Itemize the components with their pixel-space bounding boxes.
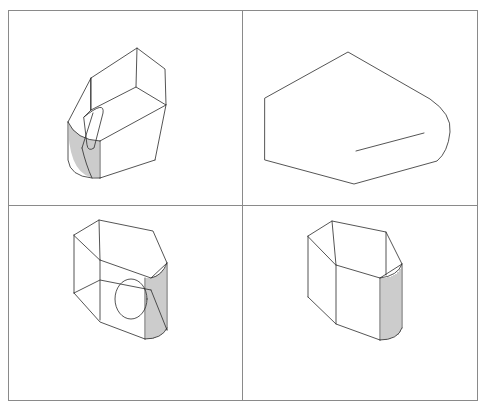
plan-view-outline	[265, 52, 450, 184]
viewport-top-left[interactable]	[68, 48, 166, 180]
cylinder-hatching	[382, 269, 400, 340]
hole-circle	[115, 279, 147, 319]
isometric-solid-top-left	[68, 48, 166, 180]
isometric-solid-bottom-left	[74, 220, 167, 339]
isometric-solid-bottom-right	[308, 221, 402, 340]
viewport-bottom-left[interactable]	[74, 220, 167, 339]
cylinder-hatching	[70, 120, 98, 180]
viewport-bottom-right[interactable]	[308, 221, 402, 340]
viewport-top-right[interactable]	[265, 52, 450, 184]
viewport-frame	[8, 10, 478, 401]
cad-drawing: CAD multi-viewport drawing of an extrude…	[0, 0, 486, 408]
